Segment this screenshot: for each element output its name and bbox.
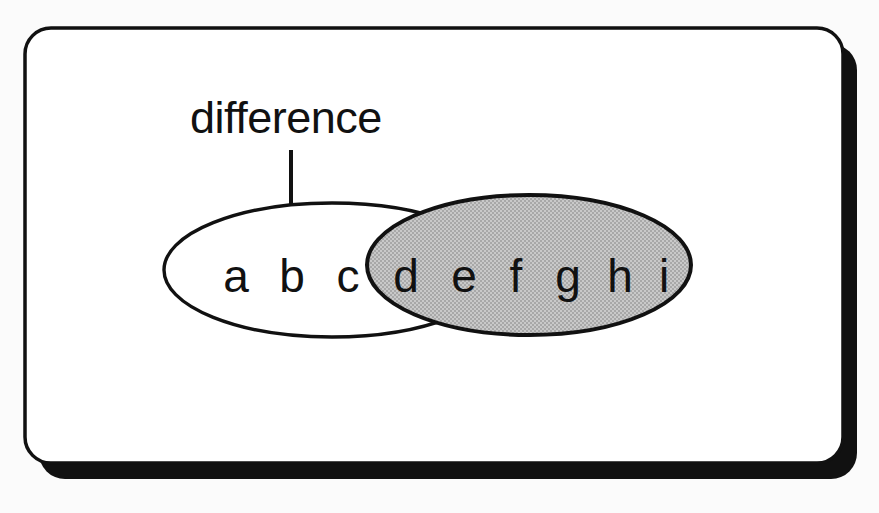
set-element-b: b [279,250,305,302]
set-element-f: f [510,250,523,302]
difference-label: difference [190,92,382,143]
set-element-i: i [659,250,669,302]
slide-stage: difference abcdefghi [0,0,879,513]
diagram-canvas: difference abcdefghi [0,0,879,513]
set-element-c: c [337,250,360,302]
set-element-e: e [451,250,477,302]
set-element-a: a [223,250,249,302]
set-element-g: g [555,250,581,302]
set-element-d: d [393,250,419,302]
set-element-h: h [607,250,633,302]
